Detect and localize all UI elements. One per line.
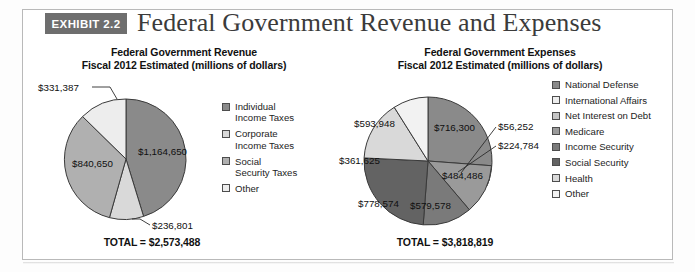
legend-swatch-icon bbox=[222, 184, 230, 192]
legend-swatch-icon bbox=[552, 174, 560, 182]
chart-revenue-title-line1: Federal Government Revenue bbox=[111, 46, 257, 58]
legend-item-individual-income-taxes[interactable]: Individual Income Taxes bbox=[222, 101, 332, 124]
legend-swatch-icon bbox=[552, 81, 560, 89]
legend-revenue: Individual Income Taxes Corporate Income… bbox=[222, 101, 332, 199]
legend-label: National Defense bbox=[565, 79, 639, 90]
chart-expenses: Federal Government Expenses Fiscal 2012 … bbox=[330, 46, 670, 227]
legend-swatch-icon bbox=[552, 190, 560, 198]
pie-expenses: $716,300 $56,252 $224,784 $484,486 $579,… bbox=[348, 89, 548, 239]
pie-value-income-security: $579,578 bbox=[410, 200, 451, 211]
legend-swatch-icon bbox=[222, 157, 230, 165]
chart-revenue: Federal Government Revenue Fiscal 2012 E… bbox=[34, 46, 334, 227]
pie-value-health: $361,625 bbox=[339, 155, 380, 166]
page-title: Federal Government Revenue and Expenses bbox=[137, 8, 602, 38]
legend-item-other[interactable]: Other bbox=[552, 188, 677, 199]
legend-swatch-icon bbox=[222, 130, 230, 138]
legend-item-income-security[interactable]: Income Security bbox=[552, 141, 677, 152]
chart-revenue-body: $1,164,650 $236,801 $840,650 $331,387 In… bbox=[34, 77, 334, 227]
legend-label: Medicare bbox=[565, 126, 604, 137]
legend-label: Other bbox=[235, 183, 259, 194]
exhibit-badge: EXHIBIT 2.2 bbox=[45, 13, 127, 34]
pie-value-social-security: $778,574 bbox=[358, 198, 399, 209]
legend-swatch-icon bbox=[552, 96, 560, 104]
pie-expenses-svg: $716,300 $56,252 $224,784 $484,486 $579,… bbox=[348, 89, 548, 239]
chart-expenses-subtitle: Fiscal 2012 Estimated (millions of dolla… bbox=[330, 59, 670, 72]
chart-revenue-total: TOTAL = $2,573,488 bbox=[2, 236, 302, 248]
legend-item-international-affairs[interactable]: International Affairs bbox=[552, 95, 677, 106]
legend-label: Individual Income Taxes bbox=[235, 101, 294, 124]
legend-label: International Affairs bbox=[565, 95, 647, 106]
figure-frame-shadow bbox=[23, 262, 674, 264]
legend-swatch-icon bbox=[552, 158, 560, 166]
legend-item-social-security[interactable]: Social Security bbox=[552, 157, 677, 168]
legend-label: Other bbox=[565, 188, 589, 199]
legend-swatch-icon bbox=[222, 103, 230, 111]
legend-item-social-security-taxes[interactable]: Social Security Taxes bbox=[222, 156, 332, 179]
pie-value-other: $593,948 bbox=[354, 118, 395, 129]
legend-item-corporate-income-taxes[interactable]: Corporate Income Taxes bbox=[222, 128, 332, 151]
chart-revenue-title: Federal Government Revenue Fiscal 2012 E… bbox=[34, 46, 334, 71]
legend-item-other[interactable]: Other bbox=[222, 183, 332, 194]
pie-value-corporate-income-taxes: $236,801 bbox=[152, 220, 193, 231]
legend-item-national-defense[interactable]: National Defense bbox=[552, 79, 677, 90]
pie-value-other: $331,387 bbox=[38, 82, 79, 93]
legend-expenses: National Defense International Affairs N… bbox=[552, 79, 677, 204]
exhibit-figure: EXHIBIT 2.2 Federal Government Revenue a… bbox=[0, 0, 695, 272]
pie-value-social-security-taxes: $840,650 bbox=[72, 158, 113, 169]
pie-value-medicare: $484,486 bbox=[442, 170, 483, 181]
exhibit-header: EXHIBIT 2.2 Federal Government Revenue a… bbox=[22, 9, 673, 43]
pie-value-individual-income-taxes: $1,164,650 bbox=[138, 146, 188, 157]
pie-value-national-defense: $716,300 bbox=[434, 122, 475, 133]
leader-line-other bbox=[92, 87, 117, 99]
pie-revenue: $1,164,650 $236,801 $840,650 $331,387 bbox=[60, 93, 210, 233]
legend-swatch-icon bbox=[552, 127, 560, 135]
pie-value-international-affairs: $56,252 bbox=[498, 121, 533, 132]
legend-swatch-icon bbox=[552, 143, 560, 151]
chart-expenses-title-line1: Federal Government Expenses bbox=[424, 46, 575, 58]
legend-label: Health bbox=[565, 173, 593, 184]
legend-item-medicare[interactable]: Medicare bbox=[552, 126, 677, 137]
chart-revenue-subtitle: Fiscal 2012 Estimated (millions of dolla… bbox=[34, 59, 334, 72]
pie-slice-social-security bbox=[364, 158, 428, 225]
legend-swatch-icon bbox=[552, 112, 560, 120]
pie-revenue-svg: $1,164,650 $236,801 $840,650 $331,387 bbox=[60, 93, 210, 233]
legend-item-net-interest-on-debt[interactable]: Net Interest on Debt bbox=[552, 110, 677, 121]
legend-label: Net Interest on Debt bbox=[565, 110, 651, 121]
legend-item-health[interactable]: Health bbox=[552, 173, 677, 184]
legend-label: Corporate Income Taxes bbox=[235, 128, 294, 151]
legend-label: Social Security Taxes bbox=[235, 156, 297, 179]
leader-line-corporate bbox=[132, 219, 150, 225]
chart-expenses-body: $716,300 $56,252 $224,784 $484,486 $579,… bbox=[330, 77, 670, 227]
legend-label: Social Security bbox=[565, 157, 628, 168]
chart-expenses-title: Federal Government Expenses Fiscal 2012 … bbox=[330, 46, 670, 71]
legend-label: Income Security bbox=[565, 141, 634, 152]
pie-value-net-interest-on-debt: $224,784 bbox=[498, 140, 539, 151]
chart-expenses-total: TOTAL = $3,818,819 bbox=[275, 236, 615, 248]
